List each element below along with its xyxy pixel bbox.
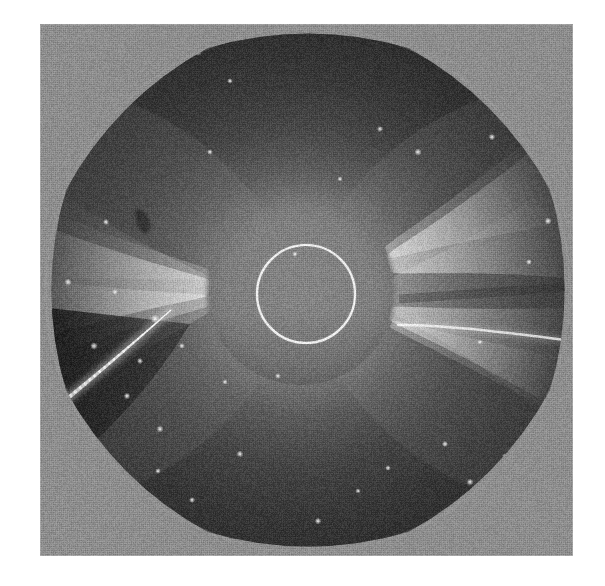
coronagraph-plate <box>40 24 573 556</box>
figure-root <box>0 0 605 586</box>
corona-image-canvas <box>40 24 573 556</box>
